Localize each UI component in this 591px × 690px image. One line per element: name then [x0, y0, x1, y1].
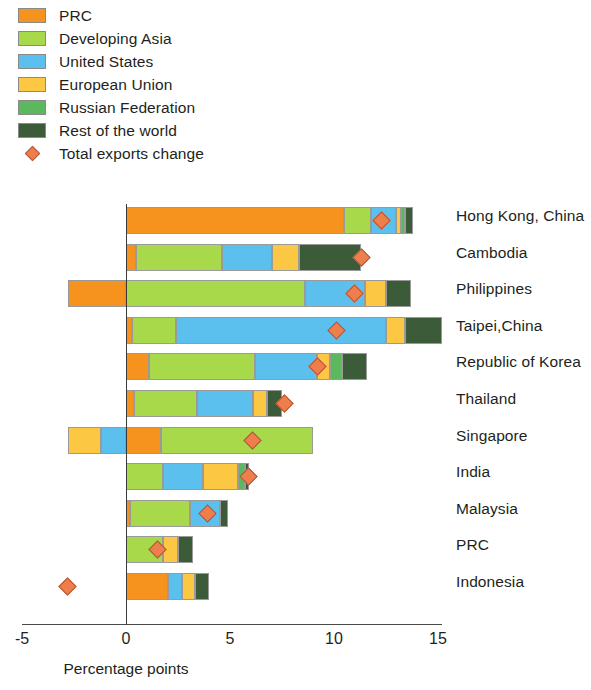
bar-segment — [132, 317, 176, 344]
total-exports-change-marker — [59, 577, 77, 595]
bar-segment — [126, 280, 305, 307]
x-tick-label: 5 — [210, 630, 250, 648]
bar-segment — [161, 427, 313, 454]
legend-label-russian-federation: Russian Federation — [59, 99, 195, 117]
bar-segment — [126, 390, 134, 417]
bar-segment — [126, 353, 149, 380]
category-label: Republic of Korea — [456, 353, 581, 371]
bar-segment — [203, 463, 238, 490]
bar-segment — [344, 207, 371, 234]
bar-track — [0, 353, 460, 380]
bar-segment — [365, 280, 386, 307]
bar-segment — [101, 427, 126, 454]
category-label: Singapore — [456, 427, 528, 445]
bar-track — [0, 573, 460, 600]
category-label: Malaysia — [456, 500, 518, 518]
bar-row: Taipei,China — [0, 312, 591, 349]
legend-swatch-european-union — [18, 77, 46, 92]
legend-label-united-states: United States — [59, 53, 153, 71]
category-label: Taipei,China — [456, 317, 543, 335]
legend-swatch-united-states — [18, 54, 46, 69]
bar-row: Philippines — [0, 275, 591, 312]
category-label: Indonesia — [456, 573, 524, 591]
bar-segment — [386, 280, 411, 307]
bar-segment — [386, 317, 405, 344]
bar-segment — [68, 427, 101, 454]
bar-segment — [126, 573, 168, 600]
category-label: India — [456, 463, 490, 481]
plot-area: Hong Kong, ChinaCambodiaPhilippinesTaipe… — [0, 196, 591, 636]
legend-swatch-developing-asia — [18, 31, 46, 46]
bar-segment — [182, 573, 194, 600]
bar-segment — [272, 244, 299, 271]
category-label: PRC — [456, 536, 489, 554]
bar-track — [0, 427, 460, 454]
bar-segment — [136, 244, 221, 271]
bar-segment — [405, 207, 413, 234]
category-label: Philippines — [456, 280, 532, 298]
bar-segment — [178, 536, 193, 563]
bar-segment — [197, 390, 253, 417]
chart-legend: PRC Developing Asia United States Europe… — [18, 4, 348, 165]
category-label: Thailand — [456, 390, 516, 408]
stacked-bar-chart: PRC Developing Asia United States Europe… — [0, 0, 591, 690]
legend-item-russian-federation: Russian Federation — [18, 96, 348, 119]
bar-segment — [330, 353, 342, 380]
bar-segment — [405, 317, 442, 344]
legend-item-rest-of-the-world: Rest of the world — [18, 119, 348, 142]
x-axis-zero-tick — [126, 617, 127, 625]
zero-reference-line — [126, 204, 127, 624]
bar-row: Republic of Korea — [0, 348, 591, 385]
bar-row: Cambodia — [0, 239, 591, 276]
bar-row: India — [0, 458, 591, 495]
bar-segment — [126, 244, 136, 271]
bar-segment — [126, 207, 344, 234]
diamond-marker-icon — [18, 146, 46, 161]
bar-track — [0, 536, 460, 563]
bar-segment — [130, 500, 190, 527]
legend-label-prc: PRC — [59, 7, 92, 25]
x-tick-label: -5 — [2, 630, 42, 648]
legend-item-united-states: United States — [18, 50, 348, 73]
bar-track — [0, 280, 460, 307]
legend-swatch-russian-federation — [18, 100, 46, 115]
bar-row: Indonesia — [0, 568, 591, 605]
x-tick-label: 0 — [106, 630, 146, 648]
x-tick-label: 10 — [314, 630, 354, 648]
bar-track — [0, 317, 460, 344]
bar-segment — [253, 390, 268, 417]
legend-item-prc: PRC — [18, 4, 348, 27]
legend-item-total-exports-change: Total exports change — [18, 142, 348, 165]
x-axis-title: Percentage points — [0, 660, 286, 678]
legend-label-developing-asia: Developing Asia — [59, 30, 172, 48]
bar-row: Singapore — [0, 422, 591, 459]
bars-layer: Hong Kong, ChinaCambodiaPhilippinesTaipe… — [0, 196, 591, 620]
legend-label-european-union: European Union — [59, 76, 172, 94]
bar-row: Hong Kong, China — [0, 202, 591, 239]
bar-segment — [222, 244, 272, 271]
bar-row: Thailand — [0, 385, 591, 422]
bar-segment — [134, 390, 196, 417]
legend-label-rest-of-the-world: Rest of the world — [59, 122, 177, 140]
category-label: Cambodia — [456, 244, 527, 262]
bar-row: PRC — [0, 531, 591, 568]
bar-segment — [220, 500, 228, 527]
bar-segment — [68, 280, 126, 307]
bar-segment — [126, 427, 161, 454]
bar-segment — [163, 463, 203, 490]
legend-item-developing-asia: Developing Asia — [18, 27, 348, 50]
bar-segment — [176, 317, 386, 344]
bar-track — [0, 244, 460, 271]
bar-track — [0, 207, 460, 234]
bar-segment — [126, 463, 163, 490]
bar-row: Malaysia — [0, 495, 591, 532]
bar-segment — [195, 573, 210, 600]
x-tick-label: 15 — [418, 630, 458, 648]
legend-swatch-prc — [18, 8, 46, 23]
bar-segment — [168, 573, 183, 600]
bar-segment — [342, 353, 367, 380]
bar-track — [0, 463, 460, 490]
legend-label-total-exports-change: Total exports change — [59, 145, 204, 163]
bar-segment — [149, 353, 255, 380]
bar-track — [0, 500, 460, 527]
